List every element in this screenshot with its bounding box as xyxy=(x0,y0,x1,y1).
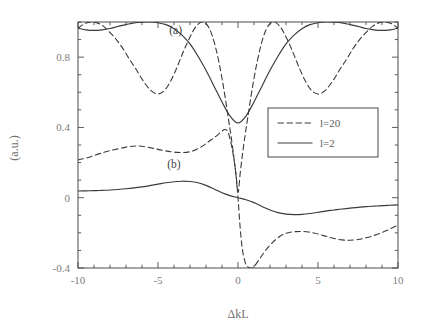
legend: l=20 l=2 xyxy=(268,108,378,157)
y-tick-label: 0.4 xyxy=(56,121,70,133)
legend-label-l20: l=20 xyxy=(320,117,341,129)
figure-container: -10-50510 -0.400.40.8 (a)(b) ΔkL (a.u.) … xyxy=(0,0,421,335)
legend-box xyxy=(268,108,378,157)
legend-label-l2: l=2 xyxy=(320,137,335,149)
x-tick-label: 5 xyxy=(315,274,321,286)
y-axis-tick-labels: -0.400.40.8 xyxy=(53,51,71,274)
series-a-dashed xyxy=(78,22,398,193)
x-axis-tick-labels: -10-50510 xyxy=(71,274,404,286)
x-tick-label: -10 xyxy=(71,274,86,286)
x-tick-label: 10 xyxy=(393,274,405,286)
series-b-solid xyxy=(78,181,398,214)
y-tick-label: 0 xyxy=(65,192,71,204)
panel-annotations: (a)(b) xyxy=(167,24,182,171)
y-tick-label: 0.8 xyxy=(56,51,70,63)
y-tick-label: -0.4 xyxy=(53,262,71,274)
x-axis-title: ΔkL xyxy=(227,307,248,321)
y-axis-title: (a.u.) xyxy=(7,135,21,160)
chart-canvas: -10-50510 -0.400.40.8 (a)(b) ΔkL (a.u.) … xyxy=(0,0,421,335)
annotation-b: (b) xyxy=(167,158,181,171)
x-tick-label: -5 xyxy=(153,274,163,286)
x-tick-label: 0 xyxy=(235,274,241,286)
annotation-a: (a) xyxy=(169,24,182,37)
